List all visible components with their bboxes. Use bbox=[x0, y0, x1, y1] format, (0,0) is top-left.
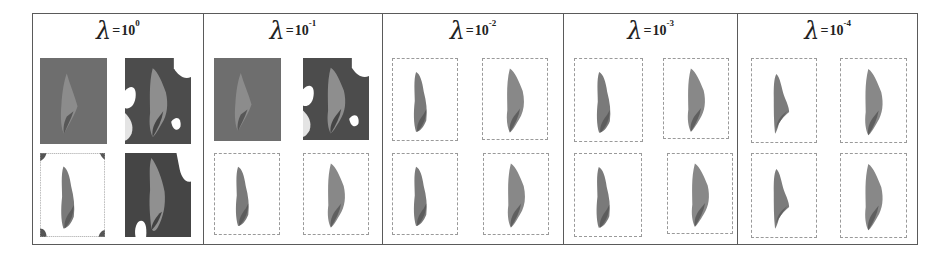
segmentation-image bbox=[125, 58, 191, 144]
equals-sign: = bbox=[821, 23, 829, 38]
thumbnail bbox=[667, 153, 733, 234]
panel-title: λ=10-1 bbox=[204, 18, 383, 44]
exponent-value: 0 bbox=[135, 18, 140, 28]
panel-lambda-1e-4: λ=10-4 bbox=[738, 14, 917, 244]
segmentation-image bbox=[393, 154, 457, 234]
thumbnail bbox=[125, 153, 191, 237]
panel-lambda-1e-1: λ=10-1 bbox=[204, 14, 384, 244]
segmentation-image bbox=[303, 58, 369, 140]
segmentation-image bbox=[304, 154, 368, 234]
segmentation-image bbox=[215, 154, 279, 234]
panel-title: λ=10-3 bbox=[564, 18, 738, 44]
segmentation-image bbox=[40, 58, 107, 144]
segmentation-image bbox=[393, 59, 457, 140]
panel-lambda-1e0: λ=100 bbox=[33, 14, 204, 244]
thumbnail bbox=[574, 58, 643, 142]
segmentation-image bbox=[575, 154, 641, 236]
panel-title: λ=10-4 bbox=[738, 18, 917, 44]
thumbnail bbox=[40, 153, 105, 237]
equals-sign: = bbox=[112, 23, 120, 38]
segmentation-image bbox=[125, 153, 191, 237]
segmentation-image bbox=[484, 154, 548, 234]
panel-title: λ=100 bbox=[33, 18, 203, 44]
segmentation-image bbox=[668, 154, 732, 233]
thumbnail bbox=[840, 58, 907, 143]
thumbnail bbox=[840, 153, 907, 238]
thumbnail bbox=[214, 58, 281, 141]
base-value: 10 bbox=[652, 23, 666, 38]
segmentation-image bbox=[752, 59, 816, 142]
lambda-symbol: λ bbox=[96, 17, 111, 45]
equals-sign: = bbox=[286, 23, 294, 38]
thumbnail bbox=[392, 153, 458, 235]
thumbnail bbox=[392, 58, 458, 141]
segmentation-image bbox=[752, 154, 816, 237]
thumbnail bbox=[483, 153, 549, 235]
thumbnail bbox=[751, 153, 817, 238]
segmentation-image bbox=[483, 59, 547, 139]
exponent-value: -4 bbox=[844, 18, 852, 28]
exponent-value: -2 bbox=[489, 18, 497, 28]
segmentation-image bbox=[40, 153, 105, 237]
lambda-symbol: λ bbox=[627, 17, 642, 45]
exponent-value: -1 bbox=[309, 18, 317, 28]
lambda-symbol: λ bbox=[450, 17, 465, 45]
panel-lambda-1e-2: λ=10-2 bbox=[383, 14, 564, 244]
base-value: 10 bbox=[295, 23, 309, 38]
segmentation-image bbox=[841, 59, 906, 142]
base-value: 10 bbox=[121, 23, 135, 38]
exponent-value: -3 bbox=[666, 18, 674, 28]
thumbnail bbox=[303, 58, 369, 140]
thumbnail bbox=[303, 153, 369, 235]
panel-title: λ=10-2 bbox=[383, 18, 563, 44]
lambda-symbol: λ bbox=[804, 17, 819, 45]
equals-sign: = bbox=[466, 23, 474, 38]
thumbnail bbox=[482, 58, 548, 140]
panel-lambda-1e-3: λ=10-3 bbox=[564, 14, 739, 244]
segmentation-image bbox=[664, 59, 728, 138]
lambda-symbol: λ bbox=[270, 17, 285, 45]
segmentation-image bbox=[575, 59, 642, 141]
base-value: 10 bbox=[475, 23, 489, 38]
thumbnail bbox=[214, 153, 280, 235]
thumbnail bbox=[125, 58, 191, 144]
base-value: 10 bbox=[830, 23, 844, 38]
thumbnail bbox=[40, 58, 107, 144]
figure-lambda-comparison: λ=100 λ=10-1 bbox=[32, 13, 918, 245]
thumbnail bbox=[663, 58, 729, 139]
thumbnail bbox=[574, 153, 642, 237]
segmentation-image bbox=[214, 58, 281, 141]
thumbnail bbox=[751, 58, 817, 143]
equals-sign: = bbox=[643, 23, 651, 38]
segmentation-image bbox=[841, 154, 906, 237]
